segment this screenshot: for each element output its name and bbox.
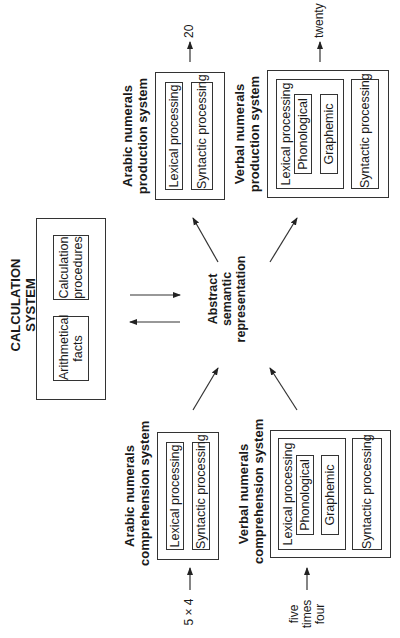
- verbal-prod-phonological-box: Phonological: [294, 94, 312, 174]
- arabic-prod-syntactic-box: Syntactic processing: [191, 82, 213, 190]
- semantic-to-verbal-prod-arrow: [270, 218, 297, 262]
- arithmetical-facts-box: Arithmetical facts: [53, 316, 89, 381]
- arabic-comp-syntactic-box: Syntactic processing: [192, 442, 210, 550]
- verbal-input-label: five times four: [288, 594, 327, 634]
- arabic-comprehension-title: Arabic numerals comprehension system: [122, 426, 152, 566]
- verbal-comp-syntactic-box: Syntactic processing: [352, 438, 382, 550]
- arabic-output-label: 20: [183, 8, 196, 38]
- arabic-comp-lexical-box: Lexical processing: [166, 442, 184, 550]
- arabic-production-title: Arabic numerals production system: [120, 66, 150, 206]
- verbal-prod-syntactic-box: Syntactic processing: [351, 79, 379, 189]
- verbal-comp-to-semantic-arrow: [270, 368, 297, 410]
- verbal-comprehension-title: Verbal numerals comprehension system: [236, 424, 266, 564]
- arabic-prod-lexical-box: Lexical processing: [165, 82, 183, 190]
- number-processing-diagram: CALCULATION SYSTEM Arithmetical facts Ca…: [0, 0, 400, 638]
- verbal-comp-graphemic-box: Graphemic: [321, 455, 339, 535]
- verbal-comp-phonological-box: Phonological: [296, 455, 314, 535]
- arabic-input-label: 5 × 4: [183, 592, 196, 632]
- verbal-output-label: twenty: [313, 0, 326, 38]
- calculation-system-title: CALCULATION SYSTEM: [8, 255, 38, 355]
- calculation-procedures-box: Calculation procedures: [53, 235, 89, 300]
- arabic-comp-to-semantic-arrow: [193, 368, 218, 410]
- verbal-production-title: Verbal numerals production system: [232, 64, 262, 204]
- abstract-semantic-representation: Abstract semantic representation: [206, 244, 248, 354]
- verbal-prod-graphemic-box: Graphemic: [320, 94, 338, 174]
